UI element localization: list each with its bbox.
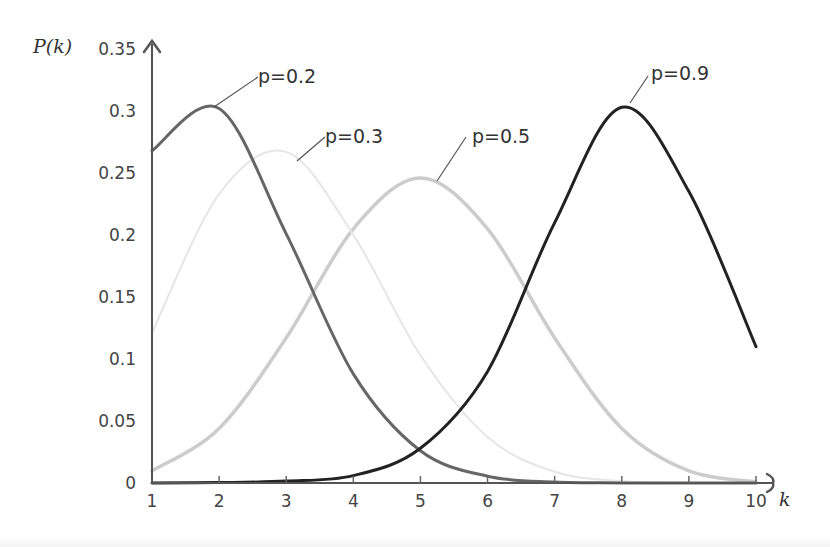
y-tick-label: 0.3 xyxy=(109,101,136,121)
x-tick-label: 9 xyxy=(683,491,694,511)
x-tick-label: 5 xyxy=(415,491,426,511)
series-label: p=0.5 xyxy=(472,125,530,147)
y-axis-title: P(k) xyxy=(32,35,72,57)
binomial-distribution-chart: 12345678910 00.050.10.150.20.250.30.35 P… xyxy=(0,0,830,547)
series-curves xyxy=(152,106,756,483)
x-tick-label: 1 xyxy=(147,491,158,511)
y-tick-label: 0.2 xyxy=(109,225,136,245)
curve-p-0-5 xyxy=(152,178,756,482)
series-labels: p=0.2p=0.3p=0.5p=0.9 xyxy=(214,62,709,181)
leader-line xyxy=(297,137,325,161)
y-tick-label: 0.1 xyxy=(109,349,136,369)
leader-line xyxy=(214,77,258,107)
x-tick-label: 2 xyxy=(214,491,225,511)
y-ticks: 00.050.10.150.20.250.30.35 xyxy=(98,39,136,493)
x-axis-title: k xyxy=(779,488,791,510)
series-label: p=0.2 xyxy=(258,65,316,87)
x-tick-label: 8 xyxy=(616,491,627,511)
bottom-band xyxy=(0,537,830,547)
axes xyxy=(144,41,773,492)
curve-p-0-3 xyxy=(152,151,756,484)
x-tick-label: 7 xyxy=(549,491,560,511)
curve-p-0-2 xyxy=(152,106,756,483)
series-label: p=0.9 xyxy=(651,62,709,84)
y-tick-label: 0.05 xyxy=(98,411,136,431)
x-tick-label: 4 xyxy=(348,491,359,511)
x-tick-label: 3 xyxy=(281,491,292,511)
series-label: p=0.3 xyxy=(325,125,383,147)
leader-line xyxy=(437,137,466,181)
y-tick-label: 0.25 xyxy=(98,163,136,183)
leader-line xyxy=(630,76,648,103)
x-tick-label: 10 xyxy=(745,491,767,511)
x-tick-label: 6 xyxy=(482,491,493,511)
y-tick-label: 0 xyxy=(125,473,136,493)
curve-p-0-9 xyxy=(152,107,756,483)
y-tick-label: 0.35 xyxy=(98,39,136,59)
y-tick-label: 0.15 xyxy=(98,287,136,307)
